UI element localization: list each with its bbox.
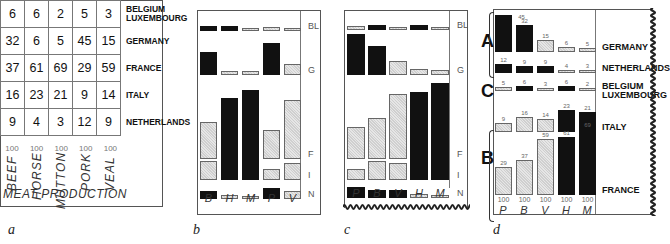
bar-g-v <box>389 61 407 75</box>
column-label: H <box>222 192 238 204</box>
caption-a: a <box>8 222 15 238</box>
bar-f-m <box>242 90 259 159</box>
row-label: GERMANY <box>121 28 191 55</box>
bar-belgium-luxembourg-m <box>579 88 596 91</box>
value-label: 16 <box>516 110 533 116</box>
row-label: F <box>308 149 314 159</box>
group-label-c: C <box>481 81 494 102</box>
bar-netherlands-p <box>495 64 512 73</box>
row-label: NETHERLANDS <box>121 109 191 136</box>
value-label: 3 <box>579 63 596 69</box>
bar-f-v <box>284 100 301 159</box>
bar-f-m <box>431 83 449 159</box>
bar-i-v <box>389 163 407 180</box>
bar-bl-h <box>410 25 428 30</box>
column-label: P <box>495 204 511 216</box>
panel-a-table: 66253BELGIUMLUXEMBOURG32654515GERMANY376… <box>0 0 163 207</box>
table-row: 66253BELGIUMLUXEMBOURG <box>1 1 191 28</box>
row-label: BELGIUMLUXEMBOURG <box>121 1 191 28</box>
column-label: M <box>432 187 448 199</box>
bar-g-b <box>368 46 386 75</box>
value-label: 5 <box>579 41 596 47</box>
table-title: MEAT PRODUCTION <box>3 187 127 201</box>
table-cell: 15 <box>97 28 121 55</box>
column-total: 100 <box>495 196 512 203</box>
value-label: 32 <box>516 18 533 24</box>
value-label: 21 <box>579 105 596 111</box>
bar-g-p <box>263 43 280 75</box>
column-label: P <box>264 192 280 204</box>
panel-d-chart: 45321565GERMANY129943NETHERLANDS56362BEL… <box>493 9 651 215</box>
table-cell: 5 <box>73 1 97 28</box>
table-cell: 45 <box>73 28 97 55</box>
bar-italy-h <box>558 110 575 132</box>
bar-france-m <box>579 129 596 195</box>
row-label: GERMANY <box>602 43 648 52</box>
bar-italy-p <box>495 123 512 132</box>
row-label: G <box>308 65 315 75</box>
table-cell: 3 <box>97 1 121 28</box>
bar-bl-v <box>284 28 301 31</box>
bar-netherlands-v <box>537 66 554 73</box>
row-label: NETHERLANDS <box>602 64 670 73</box>
brace-icon <box>489 130 494 222</box>
bar-i-m <box>431 155 449 180</box>
bar-g-h <box>410 69 428 75</box>
panel-c-chart: BLGFINPBVHM <box>344 10 468 208</box>
bar-g-v <box>284 64 301 75</box>
value-label: 5 <box>495 80 512 86</box>
bar-belgium-luxembourg-p <box>495 87 512 91</box>
bar-germany-b <box>516 25 533 52</box>
column-label: V <box>390 187 406 199</box>
table-cell: 6 <box>25 1 49 28</box>
column-total: 100 <box>98 144 122 153</box>
bar-germany-h <box>558 47 575 52</box>
column-label: V <box>285 192 301 204</box>
bar-f-b <box>200 122 217 159</box>
bar-bl-m <box>431 27 449 30</box>
bar-bl-b <box>368 25 386 30</box>
bar-i-p <box>263 169 280 180</box>
table-cell: 9 <box>73 82 97 109</box>
row-label: N <box>457 188 464 198</box>
bar-bl-h <box>221 26 238 31</box>
row-label: I <box>457 170 460 180</box>
torn-edge-c <box>343 203 470 211</box>
bar-i-h <box>410 152 428 180</box>
row-label: G <box>457 65 464 75</box>
row-label: ITALY <box>602 123 627 132</box>
value-label: 15 <box>537 33 554 39</box>
bar-netherlands-h <box>558 70 575 73</box>
bar-i-v <box>284 163 301 180</box>
value-label: 6 <box>558 79 575 85</box>
bar-france-v <box>537 139 554 195</box>
column-label: B <box>516 204 532 216</box>
table-cell: 6 <box>1 1 25 28</box>
table-row: 3761692959FRANCE <box>1 55 191 82</box>
value-label: 69 <box>579 122 596 128</box>
table-cell: 2 <box>49 1 73 28</box>
value-label: 6 <box>558 40 575 46</box>
bar-g-m <box>431 70 449 75</box>
table-row: 162321914ITALY <box>1 82 191 109</box>
table-cell: 9 <box>1 109 25 136</box>
bar-france-h <box>558 137 575 195</box>
table-cell: 21 <box>49 82 73 109</box>
value-label: 61 <box>558 130 575 136</box>
bar-germany-v <box>537 40 554 52</box>
row-label: I <box>308 170 311 180</box>
table-row: 32654515GERMANY <box>1 28 191 55</box>
bar-f-b <box>368 118 386 159</box>
column-total: 100 <box>579 196 596 203</box>
table-cell: 23 <box>25 82 49 109</box>
column-total: 100 <box>537 196 554 203</box>
bar-bl-p <box>263 27 280 31</box>
column-total: 100 <box>516 196 533 203</box>
table-cell: 3 <box>49 109 73 136</box>
bar-france-p <box>495 167 512 195</box>
table-cell: 29 <box>73 55 97 82</box>
bar-belgium-luxembourg-b <box>516 86 533 91</box>
table-cell: 4 <box>25 109 49 136</box>
table-row: 943129NETHERLANDS <box>1 109 191 136</box>
column-label: M <box>579 204 595 216</box>
